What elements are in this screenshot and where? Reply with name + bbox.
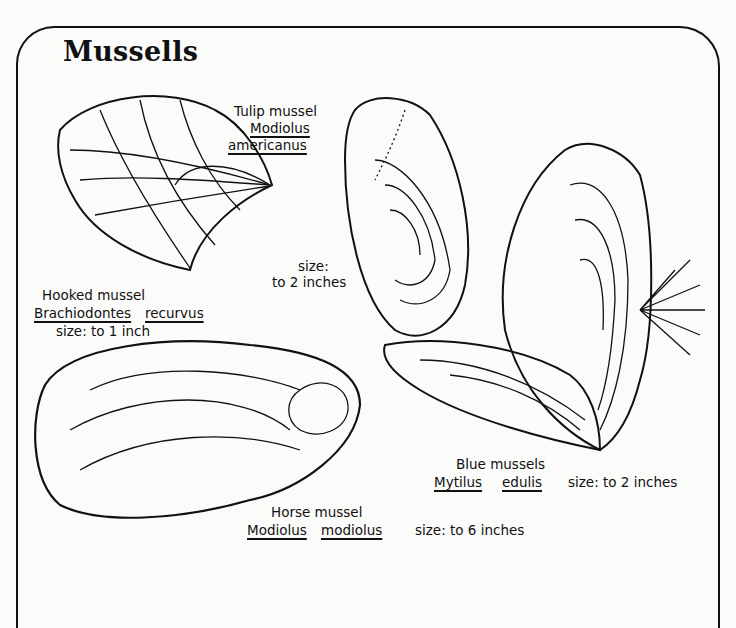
tulip-mussel-drawing — [345, 98, 468, 336]
horse-mussel-species: modiolus — [321, 522, 382, 539]
hooked-mussel-common-name: Hooked mussel — [42, 287, 145, 304]
blue-mussels-genus: Mytilus — [434, 474, 482, 491]
hooked-mussel-genus: Brachiodontes — [34, 305, 131, 322]
horse-mussel-size: size: to 6 inches — [415, 522, 524, 539]
tulip-mussel-species: americanus — [228, 137, 307, 154]
blue-mussels-size: size: to 2 inches — [568, 474, 677, 491]
hooked-mussel-drawing — [58, 96, 272, 270]
hooked-mussel-species: recurvus — [145, 305, 204, 322]
blue-mussels-species: edulis — [502, 474, 542, 491]
blue-mussels-drawing — [384, 144, 705, 450]
horse-mussel-genus: Modiolus — [247, 522, 307, 539]
tulip-mussel-common-name: Tulip mussel — [234, 103, 317, 120]
hooked-mussel-size: size: to 1 inch — [56, 323, 150, 340]
tulip-mussel-size-value: to 2 inches — [272, 274, 346, 291]
horse-mussel-common-name: Horse mussel — [271, 504, 362, 521]
horse-mussel-drawing — [35, 341, 360, 517]
tulip-mussel-genus: Modiolus — [250, 120, 310, 137]
blue-mussels-common-name: Blue mussels — [456, 456, 545, 473]
tulip-mussel-size-label: size: — [298, 258, 329, 275]
